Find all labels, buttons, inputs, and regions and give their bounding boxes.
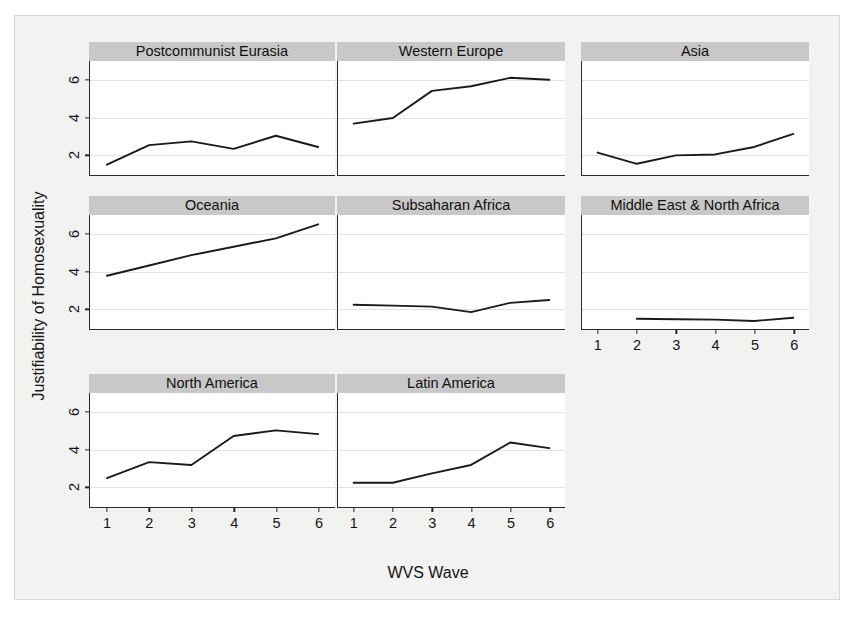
panel-title-postcommunist-eurasia: Postcommunist Eurasia: [89, 42, 335, 61]
plot-area-latin-america: 123456: [337, 393, 565, 508]
series-line-postcommunist-eurasia: [90, 61, 335, 175]
panel-title-subsaharan-africa: Subsaharan Africa: [337, 196, 565, 215]
x-tick-mark-6: [794, 329, 795, 334]
plot-area-middle-east-north-africa: 123456: [581, 215, 809, 330]
plot-inner-latin-america: 123456: [338, 393, 565, 507]
x-tick-mark-3: [191, 507, 192, 512]
x-tick-mark-3: [432, 507, 433, 512]
y-tick-label-4: 4: [66, 443, 82, 457]
panel-title-asia: Asia: [581, 42, 809, 61]
y-tick-label-4: 4: [66, 111, 82, 125]
x-tick-mark-3: [676, 329, 677, 334]
x-tick-mark-5: [276, 507, 277, 512]
panel-title-oceania: Oceania: [89, 196, 335, 215]
x-tick-label-2: 2: [145, 515, 153, 531]
panel-title-north-america: North America: [89, 374, 335, 393]
plot-area-subsaharan-africa: [337, 215, 565, 330]
figure-panel: Justifiability of Homosexuality Postcomm…: [14, 15, 840, 600]
x-tick-label-2: 2: [389, 515, 397, 531]
x-tick-mark-6: [318, 507, 319, 512]
plot-inner-oceania: 246: [90, 215, 335, 329]
series-line-north-america: [90, 393, 335, 507]
y-axis-label: Justifiability of Homosexuality: [27, 66, 51, 526]
plot-area-postcommunist-eurasia: 246: [89, 61, 335, 176]
plot-inner-asia: [582, 61, 809, 175]
x-tick-mark-1: [106, 507, 107, 512]
plot-inner-postcommunist-eurasia: 246: [90, 61, 335, 175]
x-tick-mark-4: [234, 507, 235, 512]
series-line-middle-east-north-africa: [582, 215, 809, 329]
x-tick-mark-1: [353, 507, 354, 512]
plot-inner-subsaharan-africa: [338, 215, 565, 329]
panel-title-middle-east-north-africa: Middle East & North Africa: [581, 196, 809, 215]
plot-inner-middle-east-north-africa: 123456: [582, 215, 809, 329]
y-tick-label-6: 6: [66, 227, 82, 241]
x-tick-label-1: 1: [350, 515, 358, 531]
panel-title-western-europe: Western Europe: [337, 42, 565, 61]
plot-inner-western-europe: [338, 61, 565, 175]
x-tick-label-5: 5: [751, 337, 759, 353]
panel-subsaharan-africa: Subsaharan Africa: [337, 196, 565, 330]
x-tick-label-4: 4: [468, 515, 476, 531]
x-tick-mark-4: [715, 329, 716, 334]
panel-postcommunist-eurasia: Postcommunist Eurasia246: [89, 42, 335, 176]
plot-area-asia: [581, 61, 809, 176]
panel-latin-america: Latin America123456: [337, 374, 565, 508]
x-tick-mark-6: [550, 507, 551, 512]
x-tick-label-3: 3: [188, 515, 196, 531]
panel-western-europe: Western Europe: [337, 42, 565, 176]
x-tick-label-5: 5: [507, 515, 515, 531]
series-line-latin-america: [338, 393, 565, 507]
x-tick-mark-2: [149, 507, 150, 512]
x-tick-mark-1: [597, 329, 598, 334]
series-line-asia: [582, 61, 809, 175]
x-tick-label-2: 2: [633, 337, 641, 353]
y-tick-label-4: 4: [66, 265, 82, 279]
plot-area-north-america: 246123456: [89, 393, 335, 508]
x-tick-label-5: 5: [273, 515, 281, 531]
x-tick-mark-2: [392, 507, 393, 512]
series-line-subsaharan-africa: [338, 215, 565, 329]
panel-middle-east-north-africa: Middle East & North Africa123456: [581, 196, 809, 330]
x-tick-mark-5: [754, 329, 755, 334]
y-tick-label-6: 6: [66, 405, 82, 419]
panel-asia: Asia: [581, 42, 809, 176]
plot-area-western-europe: [337, 61, 565, 176]
x-tick-mark-2: [636, 329, 637, 334]
panel-oceania: Oceania246: [89, 196, 335, 330]
x-tick-label-6: 6: [790, 337, 798, 353]
x-tick-label-3: 3: [428, 515, 436, 531]
y-tick-label-2: 2: [66, 480, 82, 494]
x-tick-mark-4: [471, 507, 472, 512]
plot-inner-north-america: 246123456: [90, 393, 335, 507]
x-tick-label-6: 6: [546, 515, 554, 531]
x-axis-label: WVS Wave: [15, 564, 841, 582]
y-tick-label-2: 2: [66, 148, 82, 162]
panel-title-latin-america: Latin America: [337, 374, 565, 393]
x-tick-mark-5: [510, 507, 511, 512]
plot-area-oceania: 246: [89, 215, 335, 330]
series-line-oceania: [90, 215, 335, 329]
x-tick-label-4: 4: [230, 515, 238, 531]
x-tick-label-1: 1: [103, 515, 111, 531]
x-tick-label-1: 1: [594, 337, 602, 353]
x-tick-label-3: 3: [672, 337, 680, 353]
y-tick-label-2: 2: [66, 302, 82, 316]
x-tick-label-4: 4: [712, 337, 720, 353]
x-tick-label-6: 6: [315, 515, 323, 531]
series-line-western-europe: [338, 61, 565, 175]
panel-north-america: North America246123456: [89, 374, 335, 508]
y-tick-label-6: 6: [66, 73, 82, 87]
